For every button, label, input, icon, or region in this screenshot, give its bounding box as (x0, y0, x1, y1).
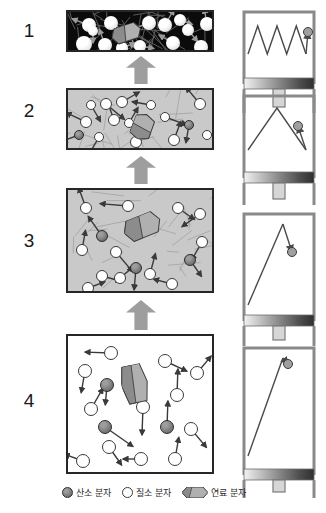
nitrogen-molecule (144, 268, 156, 280)
nitrogen-molecule (174, 14, 186, 26)
nitrogen-molecule (166, 36, 180, 50)
nitrogen-molecule (94, 132, 104, 142)
nitrogen-molecule (194, 40, 208, 52)
nitrogen-molecule (102, 440, 116, 454)
nitrogen-molecule (134, 452, 148, 466)
nitrogen-molecule (114, 272, 126, 284)
legend-item-2: 연료 분자 (182, 486, 246, 499)
energy-marker-ball (288, 248, 297, 257)
nitrogen-molecule (194, 208, 206, 220)
oxygen-molecule (184, 120, 194, 130)
nitrogen-molecule (76, 36, 92, 52)
piston-diagram-stage-2 (240, 92, 318, 212)
stage-number-4: 4 (14, 390, 44, 412)
nitrogen-molecule (104, 346, 118, 360)
legend-item-1: 질소 분자 (122, 486, 171, 499)
nitrogen-molecule (182, 24, 194, 36)
fuel-molecule-icon (182, 487, 208, 498)
energy-marker-ball (284, 360, 293, 369)
nitrogen-molecule (100, 98, 112, 110)
nitrogen-molecule (170, 388, 184, 402)
legend-label-0: 산소 분자 (76, 486, 111, 499)
legend-item-0: 산소 분자 (62, 486, 111, 499)
oxygen-molecule (100, 378, 114, 392)
nitrogen-molecule (82, 282, 94, 293)
oxygen-molecule (98, 420, 112, 434)
chamber-stage-3 (66, 188, 214, 293)
nitrogen-molecule (168, 134, 180, 146)
legend-label-2: 연료 분자 (211, 486, 246, 499)
chamber-stage-1 (66, 10, 214, 52)
nitrogen-molecule (194, 98, 206, 110)
nitrogen-molecule (80, 202, 92, 214)
nitrogen-molecule (158, 18, 172, 32)
nitrogen-molecule (110, 246, 122, 258)
flow-arrow-1 (126, 56, 156, 84)
nitrogen-molecule (202, 130, 212, 140)
nitrogen-molecule (76, 454, 90, 468)
nitrogen-molecule (200, 17, 214, 31)
nitrogen-molecule (84, 402, 98, 416)
nitrogen-molecule (190, 366, 204, 380)
nitrogen-molecule (122, 200, 134, 212)
stage-number-1: 1 (14, 20, 44, 42)
oxygen-molecule (184, 254, 196, 266)
nitrogen-molecule (86, 100, 96, 110)
chamber-stage-4 (66, 334, 214, 474)
nitrogen-molecule (108, 114, 120, 126)
nitrogen-molecule (96, 270, 108, 282)
oxygen-molecule (130, 262, 142, 274)
nitrogen-molecule (98, 38, 112, 52)
nitrogen-molecule (88, 26, 98, 36)
nitrogen-molecule (172, 202, 184, 214)
flow-arrow-2-to-1 (126, 156, 156, 184)
nitrogen-molecule (184, 422, 198, 436)
energy-marker-ball (304, 28, 313, 37)
nitrogen-molecule (78, 364, 92, 378)
oxygen-molecule (160, 420, 174, 434)
nitrogen-molecule-icon (122, 487, 133, 498)
flow-arrow-3-to-2 (126, 300, 156, 330)
stage-number-3: 3 (14, 230, 44, 252)
stage-number-2: 2 (14, 100, 44, 122)
nitrogen-molecule (80, 116, 92, 128)
nitrogen-molecule (168, 452, 182, 466)
piston-diagram-stage-4 (240, 344, 318, 505)
oxygen-molecule (74, 130, 84, 140)
nitrogen-molecule (158, 354, 172, 368)
nitrogen-molecule (166, 278, 178, 290)
energy-marker-ball (294, 122, 303, 131)
nitrogen-molecule (196, 236, 208, 248)
oxygen-molecule (96, 230, 108, 242)
figure-canvas: 1234산소 분자질소 분자연료 분자 (0, 0, 326, 513)
nitrogen-molecule (76, 244, 88, 256)
chamber-stage-2 (66, 88, 214, 150)
legend: 산소 분자질소 분자연료 분자 (62, 486, 253, 499)
piston-diagram-stage-3 (240, 210, 318, 353)
nitrogen-molecule (116, 96, 128, 108)
legend-label-1: 질소 분자 (136, 486, 171, 499)
oxygen-molecule-icon (62, 487, 73, 498)
